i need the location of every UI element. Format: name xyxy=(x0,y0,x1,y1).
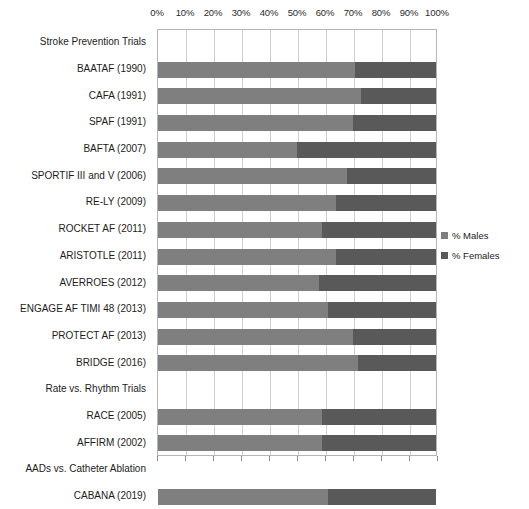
chart-row xyxy=(158,57,436,84)
stacked-bar xyxy=(158,168,436,184)
legend-swatch-icon xyxy=(441,232,448,239)
stacked-bar xyxy=(158,409,436,425)
bar-segment-females xyxy=(322,435,436,451)
stacked-bar xyxy=(158,142,436,158)
x-tick-mark-40 xyxy=(269,456,270,461)
x-tick-mark-60 xyxy=(325,456,326,461)
category-label: ARISTOTLE (2011) xyxy=(0,243,152,270)
stacked-bar xyxy=(158,62,436,78)
bar-segment-females xyxy=(336,249,436,265)
chart-row xyxy=(158,457,436,484)
bar-segment-females xyxy=(319,275,436,291)
bar-segment-males xyxy=(158,329,353,345)
legend-label: % Females xyxy=(452,250,500,261)
category-label: BRIDGE (2016) xyxy=(0,349,152,376)
chart-row xyxy=(158,30,436,57)
chart-row xyxy=(158,430,436,457)
bar-segment-females xyxy=(328,302,436,318)
category-label: ENGAGE AF TIMI 48 (2013) xyxy=(0,296,152,323)
legend-swatch-icon xyxy=(441,252,448,259)
x-axis-tick-50: 50% xyxy=(288,6,307,20)
legend-item-females[interactable]: % Females xyxy=(441,247,527,263)
bar-segment-males xyxy=(158,302,328,318)
bar-segment-females xyxy=(336,195,436,211)
chart-row xyxy=(158,324,436,351)
bar-segment-males xyxy=(158,409,322,425)
bar-segment-males xyxy=(158,168,347,184)
chart-row xyxy=(158,244,436,271)
stacked-bar xyxy=(158,435,436,451)
bar-segment-females xyxy=(347,168,436,184)
bar-segment-males xyxy=(158,249,336,265)
bar-segment-females xyxy=(358,355,436,371)
bar-segment-females xyxy=(297,142,436,158)
x-tick-mark-20 xyxy=(213,456,214,461)
bar-segment-males xyxy=(158,195,336,211)
stacked-bar xyxy=(158,249,436,265)
stacked-bar xyxy=(158,88,436,104)
stacked-bar xyxy=(158,355,436,371)
category-group-header: Rate vs. Rhythm Trials xyxy=(0,376,152,403)
chart-row xyxy=(158,83,436,110)
legend-item-males[interactable]: % Males xyxy=(441,227,527,243)
bar-segment-females xyxy=(322,409,436,425)
chart-row xyxy=(158,110,436,137)
x-axis-tick-10: 10% xyxy=(176,6,195,20)
x-axis-tick-20: 20% xyxy=(204,6,223,20)
x-axis-tick-90: 90% xyxy=(400,6,419,20)
x-axis-tick-0: 0% xyxy=(150,6,164,20)
bar-segment-females xyxy=(328,489,436,505)
chart-row xyxy=(158,217,436,244)
x-tick-mark-70 xyxy=(353,456,354,461)
category-label: RACE (2005) xyxy=(0,403,152,430)
plot-area xyxy=(157,29,437,456)
category-label: CABANA (2019) xyxy=(0,483,152,509)
category-group-header: Stroke Prevention Trials xyxy=(0,29,152,56)
bar-segment-males xyxy=(158,355,358,371)
x-axis-tick-60: 60% xyxy=(316,6,335,20)
chart-row xyxy=(158,270,436,297)
stacked-bar xyxy=(158,275,436,291)
category-label: PROTECT AF (2013) xyxy=(0,323,152,350)
chart-row xyxy=(158,163,436,190)
chart-row xyxy=(158,377,436,404)
x-tick-mark-30 xyxy=(241,456,242,461)
bar-segment-females xyxy=(361,88,436,104)
bar-segment-males xyxy=(158,142,297,158)
category-label: SPAF (1991) xyxy=(0,109,152,136)
stacked-bar xyxy=(158,302,436,318)
x-tick-mark-10 xyxy=(185,456,186,461)
chart-row xyxy=(158,297,436,324)
stacked-bar xyxy=(158,489,436,505)
bar-segment-females xyxy=(322,222,436,238)
stacked-bar xyxy=(158,329,436,345)
bar-segment-males xyxy=(158,115,353,131)
category-label: AFFIRM (2002) xyxy=(0,429,152,456)
x-axis-bottom-ticks xyxy=(157,456,437,461)
category-label: BAFTA (2007) xyxy=(0,136,152,163)
stacked-bar xyxy=(158,222,436,238)
category-label: AVERROES (2012) xyxy=(0,269,152,296)
x-tick-mark-80 xyxy=(381,456,382,461)
chart-row xyxy=(158,484,436,509)
x-axis-tick-40: 40% xyxy=(260,6,279,20)
bar-segment-females xyxy=(353,115,436,131)
chart-row xyxy=(158,137,436,164)
chart-legend: % Males% Females xyxy=(441,227,527,267)
category-label: BAATAF (1990) xyxy=(0,56,152,83)
x-axis-tick-100: 100% xyxy=(425,6,449,20)
bar-rows xyxy=(158,30,436,455)
bar-segment-males xyxy=(158,88,361,104)
bar-segment-females xyxy=(353,329,436,345)
x-axis-tick-30: 30% xyxy=(232,6,251,20)
bar-segment-females xyxy=(355,62,436,78)
bar-segment-males xyxy=(158,275,319,291)
category-label: RE-LY (2009) xyxy=(0,189,152,216)
bar-segment-males xyxy=(158,222,322,238)
category-label: CAFA (1991) xyxy=(0,82,152,109)
chart-row xyxy=(158,350,436,377)
category-group-header: AADs vs. Catheter Ablation xyxy=(0,456,152,483)
x-tick-mark-0 xyxy=(157,456,158,461)
x-axis-tick-80: 80% xyxy=(372,6,391,20)
